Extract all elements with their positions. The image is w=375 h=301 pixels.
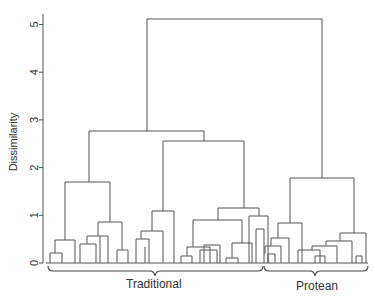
group-braces [48, 266, 368, 276]
y-tick-label: 0 [28, 260, 40, 266]
y-tick-label: 3 [28, 117, 40, 123]
y-tick-label: 4 [28, 69, 40, 75]
traditional-label: Traditional [126, 277, 182, 291]
traditional-brace [48, 266, 263, 276]
dendrogram-chart: 012345 [0, 0, 375, 301]
protean-brace [264, 266, 368, 276]
y-axis-label: Dissimilarity [7, 113, 19, 172]
protean-label: Protean [296, 279, 338, 293]
y-tick-label: 2 [28, 165, 40, 171]
y-tick-label: 1 [28, 212, 40, 218]
dendrogram-branches [46, 19, 368, 263]
y-axis-ticks: 012345 [28, 21, 43, 266]
y-tick-label: 5 [28, 21, 40, 27]
